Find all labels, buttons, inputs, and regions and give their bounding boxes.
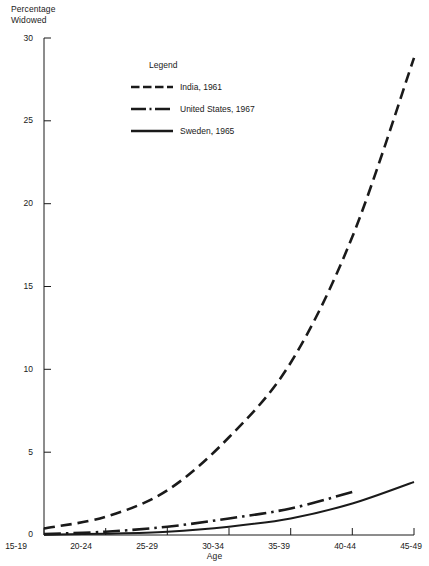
legend-swatch-dashed-icon bbox=[131, 82, 173, 92]
chart-figure: Percentage Widowed Age 30 25 20 15 10 5 … bbox=[0, 0, 429, 566]
series-line-united-states-1967 bbox=[44, 492, 352, 534]
legend-label-sweden: Sweden, 1965 bbox=[180, 126, 234, 136]
legend-label-united-states: United States, 1967 bbox=[180, 104, 255, 114]
legend-swatch-solid-icon bbox=[131, 126, 173, 136]
legend-item-united-states: United States, 1967 bbox=[131, 100, 311, 117]
legend-item-sweden: Sweden, 1965 bbox=[131, 122, 311, 139]
series-line-sweden-1965 bbox=[44, 482, 414, 535]
legend-label-india: India, 1961 bbox=[180, 82, 222, 92]
legend-title: Legend bbox=[149, 60, 311, 70]
legend-swatch-dashdot-icon bbox=[131, 104, 173, 114]
legend: Legend India, 1961 United States, 1967 bbox=[131, 60, 311, 144]
y-axis-ticks bbox=[44, 38, 51, 452]
legend-item-india: India, 1961 bbox=[131, 78, 311, 95]
